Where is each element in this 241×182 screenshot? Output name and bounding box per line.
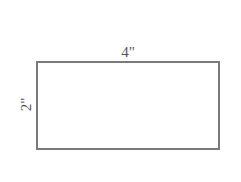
width-label: 4" <box>113 45 143 60</box>
rectangle-shape <box>36 61 220 150</box>
height-label: 2" <box>19 93 34 117</box>
